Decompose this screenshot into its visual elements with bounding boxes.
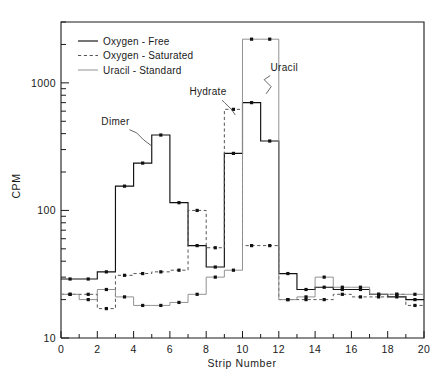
annotation-dimer: Dimer [101,116,130,127]
y-axis-title: CPM [10,173,22,198]
annotation-hydrate: Hydrate [189,86,226,97]
axis-tick-labels: 02468101214161820101001000 [31,77,430,355]
data-point-marker [68,293,71,296]
data-point-marker [413,304,416,307]
data-point-marker [105,288,108,291]
data-point-marker [177,201,180,204]
x-tick-label: 8 [203,343,209,355]
data-point-marker [341,286,344,289]
legend-label: Oxygen - Free [103,36,170,47]
data-point-marker [250,101,253,104]
x-tick-label: 10 [236,343,248,355]
data-point-marker [87,277,90,280]
data-point-marker [196,209,199,212]
data-point-marker [87,298,90,301]
x-tick-label: 6 [167,343,173,355]
annotation-uracil: Uracil [271,62,298,73]
data-point-marker [177,301,180,304]
x-tick-label: 18 [381,343,393,355]
data-point-marker [177,269,180,272]
x-axis-title: Strip Number [207,357,276,369]
data-point-marker [304,288,307,291]
data-point-marker [105,307,108,310]
data-point-marker [250,38,253,41]
data-point-marker [214,265,217,268]
cpm-vs-strip-number-chart: 02468101214161820101001000 DimerHydrateU… [0,0,447,375]
data-point-marker [123,185,126,188]
x-tick-label: 14 [309,343,321,355]
legend-label: Uracil - Standard [103,65,181,76]
y-tick-label: 1000 [31,77,56,89]
data-point-marker [359,295,362,298]
data-point-marker [304,295,307,298]
data-point-marker [68,277,71,280]
data-point-marker [413,298,416,301]
data-point-marker [377,293,380,296]
y-tick-label: 10 [44,332,56,344]
figure-container: 02468101214161820101001000 DimerHydrateU… [0,0,447,375]
data-point-marker [159,270,162,273]
data-point-marker [105,270,108,273]
data-point-marker [268,38,271,41]
data-point-marker [323,298,326,301]
data-point-marker [341,293,344,296]
data-point-marker [232,152,235,155]
data-point-marker [268,139,271,142]
y-tick-label: 100 [37,204,56,216]
data-point-marker [286,272,289,275]
data-point-marker [196,293,199,296]
data-point-marker [87,293,90,296]
data-point-marker [323,276,326,279]
data-series-group [61,39,424,308]
data-point-marker [286,298,289,301]
data-point-marker [268,244,271,247]
data-point-marker [395,293,398,296]
data-point-marker [123,274,126,277]
annotation-leader [264,76,271,94]
data-point-marker [359,286,362,289]
data-point-marker [214,276,217,279]
data-point-marker [159,304,162,307]
x-tick-label: 0 [58,343,64,355]
annotation-leader [129,130,151,146]
x-tick-label: 12 [273,343,285,355]
x-tick-label: 16 [345,343,357,355]
x-tick-label: 4 [130,343,136,355]
data-point-marker [214,246,217,249]
x-tick-label: 2 [94,343,100,355]
x-tick-label: 20 [418,343,430,355]
data-point-marker [413,293,416,296]
data-point-marker [141,272,144,275]
data-point-marker [123,295,126,298]
legend-label: Oxygen - Saturated [103,50,193,61]
data-point-marker [141,304,144,307]
chart-legend: Oxygen - FreeOxygen - SaturatedUracil - … [78,36,193,76]
data-point-marker [232,269,235,272]
data-point-marker [196,244,199,247]
data-point-marker [141,161,144,164]
data-point-marker [323,286,326,289]
data-point-marker [159,133,162,136]
data-point-marker [250,244,253,247]
